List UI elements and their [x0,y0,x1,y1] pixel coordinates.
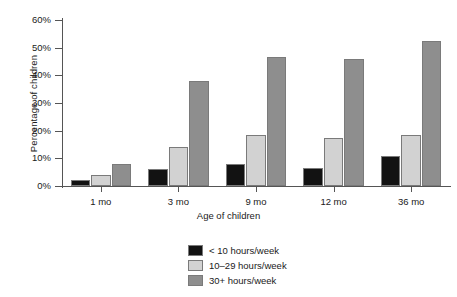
bar [226,164,246,186]
y-axis-tick-label: 50% [0,42,51,53]
legend-item: < 10 hours/week [188,243,287,257]
x-axis-tick-mark [411,187,412,192]
bar [267,57,287,186]
bar-chart-figure: Percentage of children 0%10%20%30%40%50%… [0,0,457,297]
y-axis-tick-label: 60% [0,14,51,25]
chart-legend: < 10 hours/week10–29 hours/week30+ hours… [188,243,287,288]
x-axis-tick-mark [178,187,179,192]
bar [401,135,421,186]
bar [71,180,91,186]
y-axis-tick-mark [55,158,62,159]
bar [91,175,111,186]
bar [381,156,401,186]
y-axis-tick-label: 40% [0,69,51,80]
y-axis-tick-mark [55,20,62,21]
bar [344,59,364,186]
y-axis-tick-mark [55,75,62,76]
x-axis-tick-label: 36 mo [376,196,446,207]
bar [422,41,442,186]
y-axis-tick-mark [55,48,62,49]
legend-item: 30+ hours/week [188,273,287,287]
bar [189,81,209,186]
x-axis-tick-label: 9 mo [221,196,291,207]
legend-color-swatch [188,245,203,256]
y-axis-tick-label: 30% [0,97,51,108]
x-axis-tick-mark [256,187,257,192]
x-axis-tick-mark [101,187,102,192]
bar [112,164,132,186]
y-axis-tick-mark [55,131,62,132]
legend-item-label: 10–29 hours/week [209,260,287,271]
legend-item-label: < 10 hours/week [209,245,279,256]
y-axis-tick-mark [55,103,62,104]
x-axis-tick-label: 12 mo [299,196,369,207]
y-axis-tick-label: 20% [0,125,51,136]
legend-item: 10–29 hours/week [188,258,287,272]
legend-color-swatch [188,260,203,271]
y-axis-tick-mark [55,186,62,187]
legend-color-swatch [188,275,203,286]
bar [303,168,323,186]
x-axis-tick-mark [334,187,335,192]
bar [324,138,344,186]
x-axis-tick-label: 3 mo [143,196,213,207]
x-axis-title: Age of children [0,210,457,221]
bar [169,147,189,186]
bar [246,135,266,186]
plot-area [62,20,450,186]
x-axis-tick-label: 1 mo [66,196,136,207]
bar [148,169,168,186]
legend-item-label: 30+ hours/week [209,275,276,286]
y-axis-tick-label: 0% [0,180,51,191]
y-axis-tick-label: 10% [0,152,51,163]
